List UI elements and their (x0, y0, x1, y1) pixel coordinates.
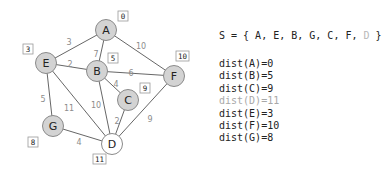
dist-label: 3 (26, 45, 31, 54)
edge-weight: 2 (67, 60, 72, 69)
edge-weight: 6 (128, 69, 133, 78)
node-label: A (102, 24, 110, 37)
node-label: D (108, 138, 116, 151)
edge-BF (97, 71, 174, 76)
node-label: G (49, 120, 58, 133)
edge-weight: 7 (93, 50, 98, 59)
edge-weight: 4 (76, 138, 81, 147)
dist-row: dist(F)=10 (219, 120, 279, 132)
visited-set-suffix: } (370, 30, 382, 41)
dist-label: 11 (95, 155, 104, 164)
graph-diagram: 371026451110294 AEBFCGD 035109811 (0, 0, 200, 172)
node-label: E (43, 57, 50, 70)
dist-label: 8 (31, 138, 36, 147)
dist-row: dist(D)=11 (219, 95, 279, 107)
node-label: B (93, 65, 101, 78)
dist-label: 5 (111, 54, 116, 63)
edge-weight: 10 (136, 42, 146, 51)
edge-weight: 9 (147, 115, 152, 124)
dist-row: dist(A)=0 (219, 58, 279, 70)
edge-weight: 11 (64, 104, 74, 113)
dist-label: 10 (178, 52, 188, 61)
edge-weight: 3 (66, 38, 71, 47)
dist-row: dist(B)=5 (219, 70, 279, 82)
edge-weight: 10 (91, 101, 101, 110)
node-label: F (171, 70, 177, 83)
visited-set-prefix: S = { A, E, B, G, C, F, (219, 30, 364, 41)
dist-row: dist(E)=3 (219, 108, 279, 120)
dist-row: dist(G)=8 (219, 132, 279, 144)
distance-list: dist(A)=0 dist(B)=5 dist(C)=9 dist(D)=11… (219, 58, 279, 145)
visited-set: S = { A, E, B, G, C, F, D } (219, 30, 382, 41)
nodes-layer: AEBFCGD (36, 20, 185, 155)
node-label: C (124, 94, 132, 107)
dist-label: 9 (143, 84, 148, 93)
dist-row: dist(C)=9 (219, 83, 279, 95)
edge-weight: 5 (40, 95, 45, 104)
edge-weight: 2 (114, 117, 119, 126)
edge-weight: 4 (113, 80, 118, 89)
dist-label: 0 (121, 12, 126, 21)
edges-layer (46, 30, 174, 144)
